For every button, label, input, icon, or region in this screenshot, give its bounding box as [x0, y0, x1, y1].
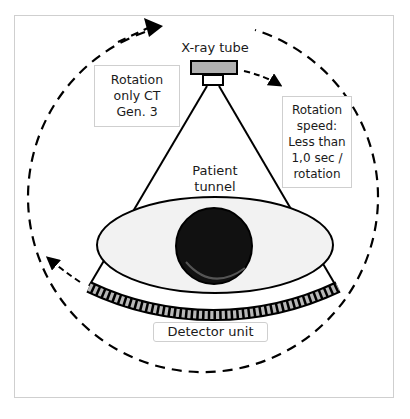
rotation-speed-line1: Rotation	[288, 102, 345, 118]
xray-tube-label: X-ray tube	[160, 40, 270, 55]
ct-diagram	[0, 0, 410, 419]
patient-tunnel-label: Patient tunnel	[170, 163, 260, 195]
rotation-only-box: Rotation only CT Gen. 3	[94, 65, 180, 127]
rotation-speed-line5: rotation	[288, 166, 345, 182]
rotation-speed-line3: Less than	[288, 134, 345, 150]
xray-tube-collimator-icon	[203, 75, 223, 85]
tube-rotation-arrow-icon	[244, 71, 280, 85]
rotation-only-line1: Rotation	[111, 72, 163, 88]
detector-unit-box: Detector unit	[153, 322, 268, 342]
rotation-arrow-icon	[144, 18, 163, 37]
rotation-only-line2: only CT	[111, 88, 163, 104]
patient-tunnel-line1: Patient	[170, 163, 260, 179]
rotation-speed-line4: 1,0 sec /	[288, 150, 345, 166]
rotation-speed-line2: speed:	[288, 118, 345, 134]
cut-off-caption	[20, 411, 200, 419]
patient-body-icon	[176, 208, 252, 284]
xray-tube-icon	[191, 61, 237, 74]
detector-rotation-arrow-icon	[48, 258, 80, 282]
rotation-only-line3: Gen. 3	[111, 104, 163, 120]
detector-unit-label: Detector unit	[168, 324, 254, 340]
rotation-speed-box: Rotation speed: Less than 1,0 sec / rota…	[282, 96, 352, 188]
patient-tunnel-line2: tunnel	[170, 179, 260, 195]
